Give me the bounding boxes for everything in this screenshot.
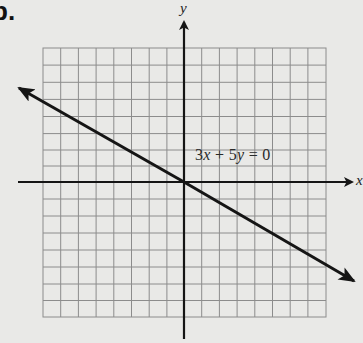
y-axis-label: y: [180, 0, 187, 17]
axes: [18, 22, 352, 339]
eq-var-x: x: [203, 146, 210, 163]
x-axis-label: x: [356, 172, 363, 189]
eq-rhs: = 0: [244, 146, 270, 163]
eq-coef-y: 5: [229, 146, 237, 163]
equation-label: 3x + 5y = 0: [195, 146, 271, 164]
eq-plus: +: [211, 146, 229, 163]
